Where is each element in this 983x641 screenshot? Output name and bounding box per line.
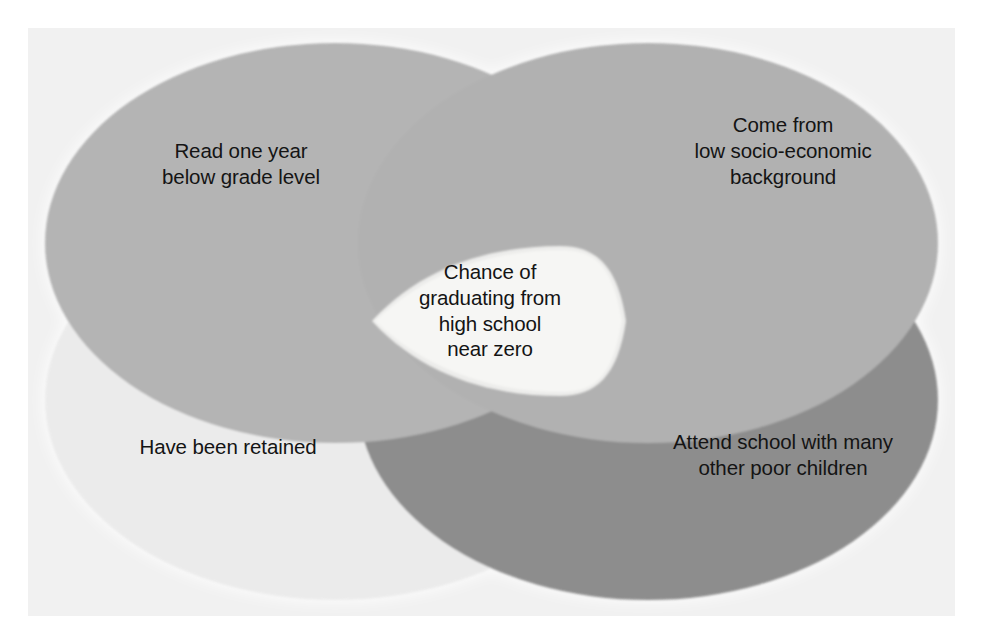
venn-shapes	[0, 0, 983, 641]
venn-diagram-canvas: Read one year below grade level Come fro…	[0, 0, 983, 641]
venn-ellipse-top-right[interactable]	[358, 43, 938, 443]
